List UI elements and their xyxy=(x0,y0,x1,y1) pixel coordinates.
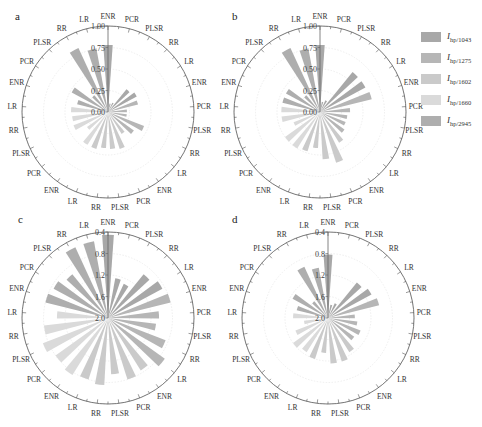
category-label: PLSR xyxy=(232,355,250,364)
legend: Ihp/1043 Ihp/1275 Ihp/1602 Ihp/1660 Ihp/… xyxy=(421,28,471,133)
radial-tick-label: 1.2 xyxy=(95,271,105,280)
legend-item: Ihp/1043 xyxy=(421,28,471,45)
category-label: LR xyxy=(288,403,298,412)
category-label: RR xyxy=(169,38,179,47)
category-label: RR xyxy=(221,126,231,135)
category-label: LR xyxy=(404,263,414,272)
category-label: PLSR xyxy=(413,332,431,341)
category-label: PCR xyxy=(197,308,211,317)
bar-rr xyxy=(70,48,108,112)
radial-tick-label: 0.4 xyxy=(315,228,325,237)
panel-label-b: b xyxy=(232,10,238,22)
category-label: PLSR xyxy=(193,126,211,135)
category-label: LR xyxy=(291,15,301,24)
category-label: LR xyxy=(177,169,187,178)
category-label: RR xyxy=(389,244,399,253)
radial-tick-label: 1.2 xyxy=(315,271,325,280)
category-label: ENR xyxy=(229,284,244,293)
legend-label: Ihp/1043 xyxy=(447,31,471,43)
category-label: RR xyxy=(190,149,200,158)
category-label: LR xyxy=(177,375,187,384)
radial-tick-label: 0.25 xyxy=(91,87,105,96)
panel-label-a: a xyxy=(15,10,20,22)
category-label: ENR xyxy=(192,284,207,293)
category-label: ENR xyxy=(221,78,236,87)
category-label: PCR xyxy=(27,375,41,384)
category-label: LR xyxy=(396,57,406,66)
category-label: RR xyxy=(190,355,200,364)
category-label: PCR xyxy=(125,221,139,230)
category-label: RR xyxy=(91,409,101,418)
category-label: PCR xyxy=(348,197,362,206)
category-label: PCR xyxy=(20,263,34,272)
category-label: LR xyxy=(68,197,78,206)
category-label: RR xyxy=(9,126,19,135)
category-label: LR xyxy=(7,102,17,111)
legend-item: Ihp/1660 xyxy=(421,91,471,108)
category-label: PCR xyxy=(27,169,41,178)
category-label: PLSR xyxy=(365,230,383,239)
category-label: RR xyxy=(303,203,313,212)
category-label: PCR xyxy=(125,15,139,24)
category-label: PCR xyxy=(345,221,359,230)
category-label: ENR xyxy=(192,78,207,87)
category-label: LR xyxy=(79,221,89,230)
panel-label-c: c xyxy=(18,213,23,225)
category-label: PLSR xyxy=(245,38,263,47)
legend-swatch xyxy=(421,53,441,63)
polar-chart-d: 2.01.61.20.80.4ENRPCRPLSRRRLRENRPCRPLSRR… xyxy=(227,218,431,418)
category-label: PLSR xyxy=(145,230,163,239)
category-label: PCR xyxy=(356,403,370,412)
category-label: PLSR xyxy=(33,244,51,253)
category-label: RR xyxy=(57,24,67,33)
category-label: ENR xyxy=(44,392,59,401)
category-label: PLSR xyxy=(331,409,349,418)
category-label: ENR xyxy=(321,218,336,227)
radial-tick-label: 1.6 xyxy=(315,293,325,302)
category-label: LR xyxy=(219,102,229,111)
category-label: PCR xyxy=(247,375,261,384)
category-label: LR xyxy=(299,221,309,230)
category-label: ENR xyxy=(377,392,392,401)
category-label: ENR xyxy=(264,392,279,401)
category-label: PLSR xyxy=(193,332,211,341)
legend-swatch xyxy=(421,95,441,105)
legend-label: Ihp/2945 xyxy=(447,115,471,127)
legend-item: Ihp/2945 xyxy=(421,112,471,129)
radial-tick-label: 0.00 xyxy=(91,108,105,117)
category-label: PCR xyxy=(136,403,150,412)
category-label: PCR xyxy=(337,15,351,24)
bar-pcr xyxy=(108,109,127,112)
category-label: LR xyxy=(280,197,290,206)
legend-label: Ihp/1275 xyxy=(447,52,471,64)
category-label: PLSR xyxy=(33,38,51,47)
polar-chart-b: 0.000.250.500.751.00ENRPCRPLSRRRLRENRPCR… xyxy=(219,12,423,212)
radial-tick-label: 0.25 xyxy=(303,87,317,96)
legend-item: Ihp/1602 xyxy=(421,70,471,87)
category-label: PLSR xyxy=(111,203,129,212)
radial-tick-label: 0.00 xyxy=(303,108,317,117)
category-label: LR xyxy=(7,308,17,317)
category-label: RR xyxy=(229,332,239,341)
category-label: RR xyxy=(9,332,19,341)
category-label: ENR xyxy=(313,12,328,21)
legend-swatch xyxy=(421,32,441,42)
category-label: ENR xyxy=(256,186,271,195)
category-label: PCR xyxy=(239,169,253,178)
category-label: ENR xyxy=(157,392,172,401)
category-label: ENR xyxy=(101,12,116,21)
category-label: LR xyxy=(397,375,407,384)
category-label: LR xyxy=(184,57,194,66)
category-label: LR xyxy=(227,308,237,317)
legend-label: Ihp/1660 xyxy=(447,94,471,106)
legend-label: Ihp/1602 xyxy=(447,73,471,85)
polar-chart-c: 2.01.61.20.80.4ENRPCRPLSRRRLRENRPCRPLSRR… xyxy=(7,218,211,418)
panel-label-d: d xyxy=(232,213,238,225)
category-label: ENR xyxy=(412,284,427,293)
category-label: RR xyxy=(269,24,279,33)
category-label: ENR xyxy=(101,218,116,227)
category-label: LR xyxy=(184,263,194,272)
radial-tick-label: 1.6 xyxy=(95,293,105,302)
category-label: RR xyxy=(277,230,287,239)
radial-tick-label: 0.8 xyxy=(315,250,325,259)
